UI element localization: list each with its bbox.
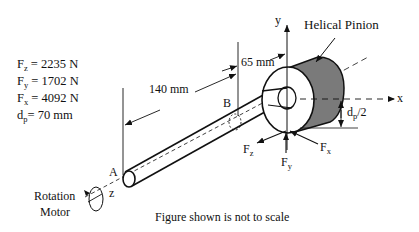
bearing-b (229, 114, 241, 130)
rotation-symbol (89, 187, 103, 211)
point-b-label: B (223, 97, 231, 109)
point-a-label: A (109, 166, 118, 178)
force-z-arrow (257, 131, 286, 143)
shaft (123, 94, 272, 187)
motor-label-line2: Motor (40, 206, 70, 218)
shaft-end-a (123, 171, 135, 187)
given-fz: Fz = 2235 N (17, 58, 78, 71)
caption: Figure shown is not to scale (155, 211, 289, 223)
dim-140-right (195, 74, 236, 92)
axis-x-label: x (397, 92, 403, 104)
given-dp: dp= 70 mm (17, 109, 73, 122)
force-y-label: Fy (281, 156, 292, 168)
dim-65-label: 65 mm (241, 56, 275, 68)
pinion-label: Helical Pinion (304, 18, 379, 31)
force-z-label: Fz (243, 143, 253, 155)
motor-label-line1: Rotation (34, 190, 75, 202)
axis-z-label: z (109, 187, 114, 199)
dim-140-label: 140 mm (149, 83, 189, 95)
dim-65-left (222, 66, 237, 71)
force-x-label: Fx (320, 141, 331, 153)
given-fx: Fx = 4092 N (17, 92, 79, 105)
axis-y-label: y (275, 14, 281, 26)
force-x-arrow (290, 131, 318, 144)
radius-label: dp/2 (347, 106, 367, 118)
given-fy: Fy = 1702 N (17, 75, 79, 88)
dim-140-left (125, 110, 160, 125)
